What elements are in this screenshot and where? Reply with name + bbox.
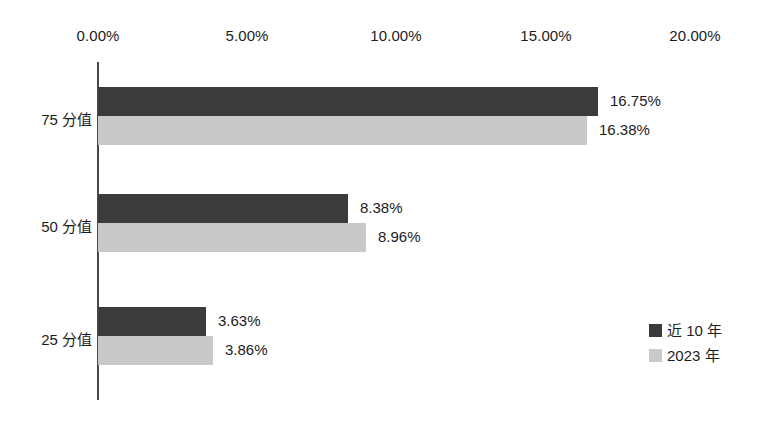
category-label-50: 50 分值 [0,217,92,237]
horizontal-bar-chart: 0.00% 5.00% 10.00% 15.00% 20.00% 75 分值 1… [0,0,762,426]
bar-25-near10y [98,307,206,336]
legend-swatch-icon-near10y [649,324,662,337]
bar-75-2023 [98,116,587,145]
bar-value-25-2023: 3.86% [225,339,268,361]
bar-25-2023 [98,336,213,365]
category-label-25: 25 分值 [0,330,92,350]
bar-value-75-2023: 16.38% [599,119,650,141]
bar-50-2023 [98,223,366,252]
legend-swatch-icon-2023 [649,349,662,362]
bar-value-75-near10y: 16.75% [610,90,661,112]
legend-item-near10y: 近 10 年 [649,318,759,343]
legend-label-2023: 2023 年 [667,346,720,366]
legend-item-2023: 2023 年 [649,343,759,368]
bar-value-25-near10y: 3.63% [218,310,261,332]
bar-value-50-near10y: 8.38% [360,197,403,219]
chart-legend: 近 10 年 2023 年 [649,318,759,368]
bar-75-near10y [98,87,598,116]
bar-value-50-2023: 8.96% [378,226,421,248]
legend-label-near10y: 近 10 年 [667,321,722,341]
plot-area: 75 分值 16.75% 16.38% 50 分值 8.38% 8.96% [0,0,762,426]
bar-50-near10y [98,194,348,223]
category-label-75: 75 分值 [0,110,92,130]
